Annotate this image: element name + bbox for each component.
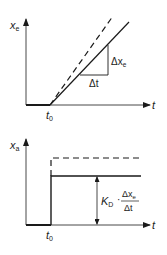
bottom-x-axis-label: t — [152, 219, 156, 231]
top-y-axis-label: xe — [9, 19, 20, 32]
top-x-axis-label: t — [152, 99, 156, 111]
top-chart: xe t t0 Δxe Δt — [9, 16, 156, 122]
bottom-solid-step — [51, 176, 141, 225]
diagram-canvas: xe t t0 Δxe Δt xa t t0 KD · Δxe Δt — [0, 0, 167, 255]
bottom-dashed-step — [51, 158, 141, 176]
top-dashed-ramp — [50, 16, 113, 105]
fraction-denominator: Δt — [124, 203, 133, 213]
delta-t-label: Δt — [89, 78, 99, 89]
delta-x-label: Δxe — [111, 56, 127, 68]
top-t0-label: t0 — [46, 109, 53, 122]
gain-formula: KD · Δxe Δt — [101, 189, 139, 213]
gain-symbol: KD — [101, 195, 113, 208]
multiply-dot: · — [117, 194, 120, 205]
fraction-numerator: Δxe — [122, 189, 137, 200]
bottom-y-axis-label: xa — [9, 139, 20, 152]
slope-triangle — [80, 45, 108, 75]
bottom-t0-label: t0 — [46, 229, 53, 242]
bottom-chart: xa t t0 KD · Δxe Δt — [9, 139, 156, 242]
